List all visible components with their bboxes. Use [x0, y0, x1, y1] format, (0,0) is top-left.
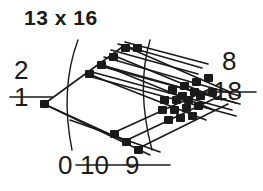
label-left-top: 2 — [14, 57, 28, 83]
label-bottom-third: 9 — [125, 152, 139, 178]
label-bottom-second: 10 — [80, 152, 109, 178]
label-right-top: 8 — [222, 48, 236, 74]
diagram-canvas: 13 x 16 — [0, 0, 263, 191]
label-left-bottom: 1 — [14, 84, 28, 110]
label-bottom-first: 0 — [58, 152, 72, 178]
label-right-bottom: 18 — [213, 78, 242, 104]
